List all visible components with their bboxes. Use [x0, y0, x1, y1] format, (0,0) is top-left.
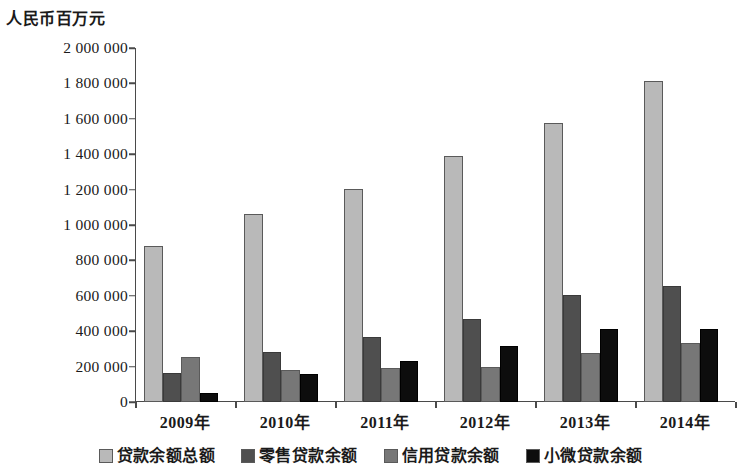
y-axis-tick-label: 1 400 000: [8, 146, 128, 162]
legend-item[interactable]: 信用贷款余额: [384, 448, 500, 464]
bar: [400, 361, 419, 402]
bar: [481, 367, 500, 402]
bar: [500, 346, 519, 402]
legend-label: 信用贷款余额: [402, 448, 500, 464]
x-axis-tick-mark: [635, 402, 637, 408]
y-axis-tick-mark: [129, 47, 135, 49]
y-axis-tick-label: 1 600 000: [8, 111, 128, 127]
x-axis-tick-label: 2013年: [530, 409, 640, 433]
y-axis-tick-label: 400 000: [8, 323, 128, 339]
bar: [381, 368, 400, 402]
bar: [681, 343, 700, 402]
y-axis-tick-label: 1 200 000: [8, 182, 128, 198]
legend-swatch-icon: [526, 449, 540, 463]
x-axis-tick-mark: [135, 402, 137, 408]
bar: [700, 329, 719, 402]
legend-item[interactable]: 贷款余额总额: [99, 448, 215, 464]
legend-item[interactable]: 小微贷款余额: [526, 448, 642, 464]
bar: [300, 374, 319, 402]
y-axis-tick-label: 1 800 000: [8, 76, 128, 92]
x-axis-tick-mark: [735, 402, 737, 408]
bar: [463, 319, 482, 402]
y-axis-tick-label: 200 000: [8, 359, 128, 375]
bar: [663, 286, 682, 402]
bar: [144, 246, 163, 402]
x-axis-tick-mark: [235, 402, 237, 408]
bar: [244, 214, 263, 402]
x-axis-tick-mark: [335, 402, 337, 408]
y-axis-tick-label: 800 000: [8, 253, 128, 269]
legend-label: 零售贷款余额: [259, 448, 357, 464]
legend-label: 小微贷款余额: [544, 448, 642, 464]
y-axis-tick-mark: [129, 295, 135, 297]
legend-swatch-icon: [99, 449, 113, 463]
chart-legend: 贷款余额总额零售贷款余额信用贷款余额小微贷款余额: [0, 441, 741, 471]
y-axis-tick-label: 600 000: [8, 288, 128, 304]
x-axis-tick-label: 2009年: [130, 409, 240, 433]
y-axis-tick-mark: [129, 118, 135, 120]
legend-item[interactable]: 零售贷款余额: [241, 448, 357, 464]
bar: [181, 357, 200, 402]
x-axis-tick-label: 2014年: [630, 409, 740, 433]
x-axis-tick-mark: [535, 402, 537, 408]
y-axis-tick-label: 2 000 000: [8, 40, 128, 56]
bar: [363, 337, 382, 402]
bar: [644, 81, 663, 402]
bar: [444, 156, 463, 402]
legend-label: 贷款余额总额: [117, 448, 215, 464]
bar: [281, 370, 300, 402]
bar: [263, 352, 282, 402]
bar-chart: 人民币百万元 2 000 0001 800 0001 600 0001 400 …: [0, 0, 741, 475]
bar: [163, 373, 182, 402]
bar: [581, 353, 600, 402]
y-axis-tick-mark: [129, 83, 135, 85]
bar: [200, 393, 219, 402]
y-axis-tick-mark: [129, 224, 135, 226]
bar: [344, 189, 363, 402]
y-axis-tick-mark: [129, 260, 135, 262]
bar: [544, 123, 563, 402]
x-axis-tick-label: 2010年: [230, 409, 340, 433]
legend-swatch-icon: [241, 449, 255, 463]
x-axis-tick-label: 2011年: [330, 409, 440, 433]
bar: [600, 329, 619, 402]
y-axis-tick-mark: [129, 330, 135, 332]
x-axis-tick-label: 2012年: [430, 409, 540, 433]
y-axis-tick-mark: [129, 153, 135, 155]
y-axis-title: 人民币百万元: [6, 5, 105, 29]
x-axis-tick-mark: [435, 402, 437, 408]
bar: [563, 295, 582, 402]
y-axis-tick-label: 0: [8, 394, 128, 410]
y-axis-tick-label: 1 000 000: [8, 217, 128, 233]
y-axis-tick-mark: [129, 189, 135, 191]
legend-swatch-icon: [384, 449, 398, 463]
y-axis-tick-mark: [129, 366, 135, 368]
